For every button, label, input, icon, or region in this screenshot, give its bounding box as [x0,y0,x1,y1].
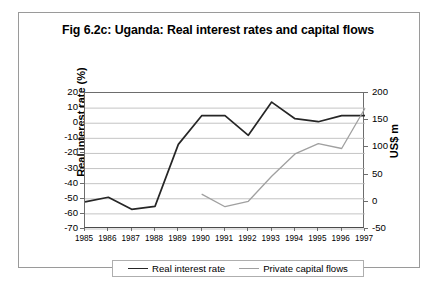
y-axis-right-tick-mark [364,92,368,93]
y-axis-right-tick-mark [364,174,368,175]
y-axis-right-tick-label: 100 [372,141,406,151]
legend-swatch-private-capital-flows [239,268,259,269]
x-axis-tick-mark [317,228,318,231]
y-axis-right-tick-label: 0 [372,196,406,206]
y-axis-left-tick-label: -40 [44,178,78,188]
y-axis-left-tick-mark [80,198,84,199]
y-axis-left-tick-label: -30 [44,163,78,173]
series-container [85,93,365,229]
y-axis-left-tick-label: -10 [44,132,78,142]
legend-label-private-capital-flows: Private capital flows [263,263,348,274]
plot-area [84,92,364,228]
y-axis-right-tick-mark [364,201,368,202]
y-axis-left-tick-label: -60 [44,208,78,218]
chart-title: Fig 6.2c: Uganda: Real interest rates an… [53,23,383,38]
legend-item-private-capital-flows: Private capital flows [239,263,348,274]
y-axis-left-tick-label: 0 [44,117,78,127]
x-axis-tick-mark [271,228,272,231]
y-axis-left-tick-label: -70 [44,223,78,233]
x-axis-tick-mark [294,228,295,231]
y-axis-right-tick-label: 150 [372,114,406,124]
legend-item-real-interest-rate: Real interest rate [128,263,225,274]
y-axis-right-tick-label: 200 [372,87,406,97]
x-axis-tick-mark [154,228,155,231]
y-axis-left-tick-mark [80,122,84,123]
x-axis-tick-mark [341,228,342,231]
y-axis-left-tick-mark [80,92,84,93]
x-axis-tick-mark [84,228,85,231]
y-axis-left-tick-label: -20 [44,147,78,157]
y-axis-left-tick-label: -50 [44,193,78,203]
y-axis-right-tick-label: -50 [372,223,406,233]
x-axis-tick-mark [224,228,225,231]
x-axis-tick-mark [107,228,108,231]
x-axis-tick-mark [177,228,178,231]
x-axis-tick-mark [201,228,202,231]
x-axis-tick-label: 1997 [349,234,379,244]
y-axis-left-tick-mark [80,137,84,138]
x-axis-tick-mark [364,228,365,231]
gridlines [85,108,365,229]
y-axis-left-tick-mark [80,107,84,108]
y-axis-left-tick-mark [80,183,84,184]
legend-label-real-interest-rate: Real interest rate [152,263,225,274]
y-axis-left-tick-mark [80,213,84,214]
y-axis-right-tick-mark [364,119,368,120]
y-axis-right-tick-label: 50 [372,169,406,179]
y-axis-right-tick-mark [364,146,368,147]
x-axis-tick-mark [247,228,248,231]
legend-swatch-real-interest-rate [128,268,148,269]
y-axis-left-tick-mark [80,168,84,169]
chart-legend: Real interest rate Private capital flows [112,260,364,277]
line-series-real-interest-rate [85,102,365,209]
y-axis-left-tick-mark [80,152,84,153]
y-axis-left-tick-label: 20 [44,87,78,97]
figure-frame: Fig 6.2c: Uganda: Real interest rates an… [18,12,420,268]
y-axis-left-tick-label: 10 [44,102,78,112]
x-axis-tick-mark [131,228,132,231]
